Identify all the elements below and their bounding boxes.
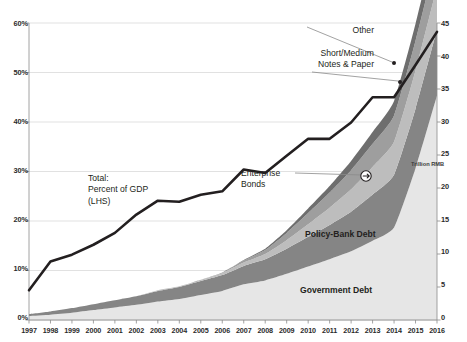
y-axis-left-tick-10: 10%	[2, 264, 28, 273]
chart-container: 60% 50% 40% 30% 20% 10% 0% 45 40 35 30 2…	[0, 0, 467, 342]
leader-line-short-medium	[312, 72, 398, 81]
enterprise-annotation-line-1: Enterprise	[241, 168, 280, 179]
enterprise-bonds-annotation: Enterprise Bonds	[241, 168, 280, 191]
y-axis-right-tick-45: 45	[441, 19, 465, 28]
short-medium-annotation-line-1: Short/Medium	[238, 48, 374, 59]
y-axis-right-tick-40: 40	[441, 52, 465, 61]
leader-marker-short-medium	[398, 80, 402, 84]
other-annotation-label: Other	[279, 25, 374, 36]
government-debt-annotation: Government Debt	[300, 285, 372, 296]
policy-bank-debt-annotation: Policy-Bank Debt	[305, 229, 376, 240]
total-gdp-annotation: Total: Percent of GDP (LHS)	[88, 173, 148, 207]
y-axis-left-tick-60: 60%	[2, 19, 28, 28]
chart-plot-area	[0, 0, 467, 342]
total-annotation-line-3: (LHS)	[88, 196, 148, 207]
short-medium-annotation: Short/Medium Notes & Paper	[238, 48, 374, 71]
y-axis-right-tick-10: 10	[441, 247, 465, 256]
other-annotation: Other	[279, 25, 374, 36]
y-axis-left-tick-40: 40%	[2, 117, 28, 126]
short-medium-annotation-line-2: Notes & Paper	[238, 59, 374, 70]
y-axis-right-tick-5: 5	[441, 280, 465, 289]
total-annotation-line-1: Total:	[88, 173, 148, 184]
y-axis-right-tick-15: 15	[441, 215, 465, 224]
y-axis-left-tick-0: 0%	[2, 313, 28, 322]
total-annotation-line-2: Percent of GDP	[88, 184, 148, 195]
y-axis-left-tick-30: 30%	[2, 166, 28, 175]
y-axis-right-tick-30: 30	[441, 117, 465, 126]
enterprise-annotation-line-2: Bonds	[241, 179, 280, 190]
y-axis-left-tick-50: 50%	[2, 68, 28, 77]
y-axis-left-tick-20: 20%	[2, 215, 28, 224]
y-axis-right-tick-25: 25	[441, 149, 465, 158]
y-axis-right-tick-20: 20	[441, 182, 465, 191]
right-axis-unit-label: Trillion RMB	[411, 161, 444, 167]
leader-marker-other	[392, 61, 396, 65]
x-axis-tick-2016: 2016	[422, 326, 452, 335]
y-axis-right-tick-0: 0	[441, 313, 465, 322]
y-axis-right-tick-35: 35	[441, 84, 465, 93]
